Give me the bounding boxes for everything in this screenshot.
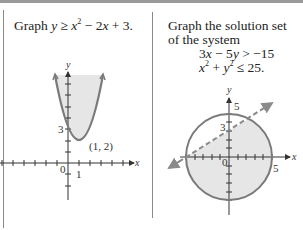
vertex-label: (1, 2) — [89, 140, 113, 153]
circle-system-graph: y x 5 5 3 0 — [160, 84, 300, 215]
x-axis-label: x — [291, 151, 297, 162]
y-axis-label: y — [226, 84, 232, 95]
y-axis-label: y — [65, 59, 71, 70]
top-intercept-label: 5 — [234, 100, 240, 112]
line-y-intercept-label: 3 — [220, 121, 226, 133]
x-tick-label: 1 — [76, 168, 82, 180]
origin-label: 0 — [222, 156, 228, 168]
x-axis-label: x — [134, 157, 140, 168]
right-intercept-label: 5 — [273, 162, 279, 174]
origin-label: 0 — [60, 163, 66, 175]
graphs-canvas: y x 3 (1, 2) 0 1 y x — [0, 0, 303, 230]
parabola-graph: y x 3 (1, 2) 0 1 — [0, 59, 140, 200]
y-intercept-label: 3 — [58, 123, 64, 135]
